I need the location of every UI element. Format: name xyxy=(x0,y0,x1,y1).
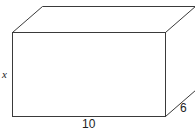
top-face xyxy=(13,6,196,33)
depth-label: 6 xyxy=(180,101,187,115)
height-label: x xyxy=(1,68,7,80)
top-left-edge xyxy=(13,7,43,33)
box-diagram: x 10 6 xyxy=(0,0,195,129)
length-label: 10 xyxy=(82,117,96,129)
front-face xyxy=(13,33,166,117)
top-right-edge xyxy=(166,6,196,33)
